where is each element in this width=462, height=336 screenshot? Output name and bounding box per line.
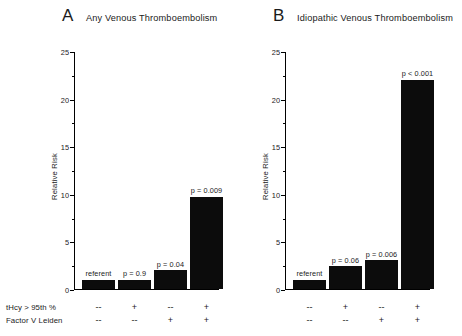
group-cell-b-r1-c1: -- (307, 302, 313, 312)
y-tick-label-20-b: 20 (272, 95, 280, 104)
y-tick-label-25-a: 25 (61, 48, 69, 57)
group-row-label-factorv: Factor V Leiden (6, 316, 63, 325)
group-cell-a-r1-c2: + (132, 302, 137, 312)
group-cell-b-r2-c1: -- (307, 315, 313, 325)
x-axis-line-a (74, 289, 219, 290)
group-cell-a-r1-c4: + (204, 302, 209, 312)
bar-a-2 (118, 280, 151, 290)
y-tick-label-25-b: 25 (272, 48, 280, 57)
plot-area-b: 0 5 10 15 20 25 (285, 52, 430, 290)
bar-annotation-a-2: p = 0.9 (123, 269, 146, 278)
y-tick-label-10-b: 10 (272, 190, 280, 199)
chart-panel-a: A Any Venous Thromboembolism Relative Ri… (0, 0, 231, 336)
bar-b-1 (293, 280, 326, 290)
figure-container: A Any Venous Thromboembolism Relative Ri… (0, 0, 462, 336)
panel-letter-b: B (273, 6, 285, 26)
group-cell-a-r2-c4: + (204, 315, 209, 325)
group-cell-a-r2-c2: -- (132, 315, 138, 325)
group-cell-b-r1-c2: + (343, 302, 348, 312)
bar-b-4 (401, 80, 434, 289)
bar-a-1 (82, 280, 115, 290)
group-cell-b-r2-c2: -- (343, 315, 349, 325)
group-cell-a-r2-c3: + (168, 315, 173, 325)
y-tick-label-5-b: 5 (276, 238, 280, 247)
bar-a-3 (154, 270, 187, 289)
y-tick-label-20-a: 20 (61, 95, 69, 104)
bar-b-2 (329, 266, 362, 289)
bar-annotation-b-4: p < 0.001 (402, 69, 434, 78)
y-tick-label-0-a: 0 (65, 286, 69, 295)
y-axis-label-b: Relative Risk (261, 153, 270, 200)
group-cell-a-r2-c1: -- (96, 315, 102, 325)
bar-annotation-a-1: referent (86, 269, 112, 278)
group-cell-a-r1-c3: -- (168, 302, 174, 312)
plot-area-a: 0 5 10 15 20 25 (74, 52, 219, 290)
bar-annotation-a-4: p = 0.009 (191, 186, 223, 195)
x-axis-line-b (285, 289, 430, 290)
group-cell-a-r1-c1: -- (96, 302, 102, 312)
bar-b-3 (365, 260, 398, 289)
chart-panel-b: B Idiopathic Venous Thromboembolism Rela… (231, 0, 462, 336)
panel-letter-a: A (62, 6, 74, 26)
group-cell-b-r1-c3: -- (379, 302, 385, 312)
group-cell-b-r2-c3: + (379, 315, 384, 325)
bar-annotation-b-3: p = 0.006 (366, 250, 398, 259)
panel-title-b: Idiopathic Venous Thromboembolism (297, 13, 453, 23)
y-tick-label-10-a: 10 (61, 190, 69, 199)
bar-annotation-a-3: p = 0.04 (157, 260, 184, 269)
y-tick-label-0-b: 0 (276, 286, 280, 295)
panel-title-a: Any Venous Thromboembolism (86, 13, 217, 23)
bar-annotation-b-2: p = 0.06 (332, 256, 359, 265)
y-tick-label-15-a: 15 (61, 143, 69, 152)
y-tick-label-15-b: 15 (272, 143, 280, 152)
y-axis-line-a (74, 52, 75, 290)
y-axis-label-a: Relative Risk (50, 153, 59, 200)
y-tick-label-5-a: 5 (65, 238, 69, 247)
y-axis-line-b (285, 52, 286, 290)
bar-a-4 (190, 197, 223, 289)
bar-annotation-b-1: referent (297, 269, 323, 278)
group-cell-b-r1-c4: + (415, 302, 420, 312)
group-row-label-thcy: tHcy > 95th % (6, 303, 56, 312)
group-cell-b-r2-c4: + (415, 315, 420, 325)
